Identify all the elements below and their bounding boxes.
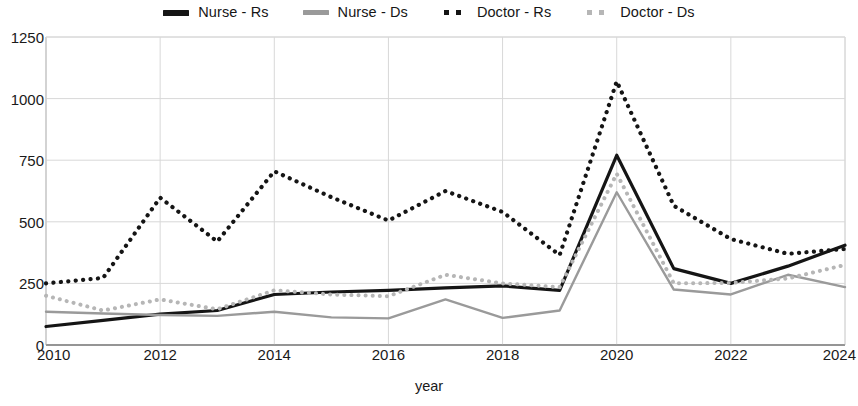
series-line-doctor-ds <box>46 174 845 311</box>
y-tick-label: 750 <box>0 152 44 169</box>
x-tick-label: 2010 <box>37 346 70 363</box>
line-chart: Nurse - Rs Nurse - Ds Doctor - Rs Doctor… <box>0 0 858 406</box>
plot-svg <box>0 24 858 354</box>
x-tick-label: 2024 <box>823 346 856 363</box>
plot-area <box>0 24 858 354</box>
chart-legend: Nurse - Rs Nurse - Ds Doctor - Rs Doctor… <box>0 0 858 24</box>
legend-label-nurse-rs: Nurse - Rs <box>198 4 268 20</box>
y-tick-label: 250 <box>0 275 44 292</box>
legend-key-nurse-rs-icon <box>163 7 189 18</box>
legend-item-nurse-rs[interactable]: Nurse - Rs <box>163 4 268 20</box>
y-tick-label: 500 <box>0 213 44 230</box>
y-tick-label: 1000 <box>0 90 44 107</box>
legend-label-doctor-ds: Doctor - Ds <box>620 4 694 20</box>
legend-item-doctor-rs[interactable]: Doctor - Rs <box>442 4 551 20</box>
legend-key-doctor-rs-icon <box>442 7 468 18</box>
x-tick-label: 2016 <box>372 346 405 363</box>
x-tick-label: 2022 <box>714 346 747 363</box>
x-tick-label: 2020 <box>600 346 633 363</box>
legend-key-nurse-ds-icon <box>303 7 329 18</box>
x-axis-title: year <box>0 378 858 394</box>
series-line-doctor-rs <box>46 81 845 283</box>
x-axis: 20102012201420162018202020222024 <box>0 346 858 368</box>
x-tick-label: 2012 <box>143 346 176 363</box>
legend-key-doctor-ds-icon <box>585 7 611 18</box>
legend-item-nurse-ds[interactable]: Nurse - Ds <box>303 4 408 20</box>
series-line-nurse-ds <box>46 192 845 318</box>
y-axis: 025050075010001250 <box>0 24 44 354</box>
y-tick-label: 1250 <box>0 29 44 46</box>
x-tick-label: 2014 <box>258 346 291 363</box>
x-tick-label: 2018 <box>486 346 519 363</box>
series-line-nurse-rs <box>46 155 845 326</box>
legend-label-doctor-rs: Doctor - Rs <box>477 4 551 20</box>
legend-item-doctor-ds[interactable]: Doctor - Ds <box>585 4 694 20</box>
legend-label-nurse-ds: Nurse - Ds <box>338 4 408 20</box>
